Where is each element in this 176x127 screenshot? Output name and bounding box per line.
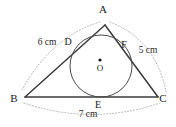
triangle-incircle-figure: A B C D E F O 6 cm 5 cm 7 cm [0, 0, 176, 127]
measure-label-bc: 7 cm [79, 109, 98, 119]
incenter-label-o: O [97, 63, 104, 73]
vertex-label-c: C [159, 92, 166, 104]
vertex-label-b: B [10, 92, 17, 104]
vertex-label-a: A [99, 3, 107, 15]
tangent-label-f: F [121, 39, 127, 50]
measure-arc-ac [110, 22, 166, 92]
incenter-dot [98, 58, 101, 61]
tangent-label-d: D [64, 36, 71, 47]
measure-label-ac: 5 cm [139, 45, 158, 55]
measure-label-ab: 6 cm [38, 37, 57, 47]
measure-arc-ab [22, 22, 100, 90]
